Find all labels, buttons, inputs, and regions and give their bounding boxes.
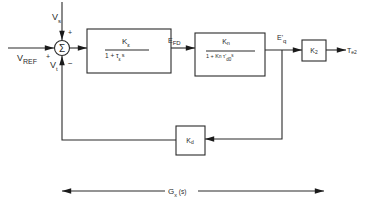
vref-input: VREF + [8,48,54,65]
block-diagram: Vs + VREF + Σ Vt − Kε 1 + τεs EFD Kn 1 +… [0,0,375,206]
gx-span-indicator: Gx (s) [62,187,324,198]
exciter-block: Kε 1 + τεs [87,29,171,73]
vt-sign: − [68,59,73,68]
svg-text:Kn: Kn [222,38,230,46]
vref-sign: + [46,53,50,60]
k2-block: K2 [302,40,326,61]
field-block: Kn 1 + Kn τ'd0s [195,33,265,76]
svg-text:K2: K2 [310,47,318,55]
svg-text:Vs: Vs [52,12,61,24]
summing-junction: Σ [55,41,70,56]
svg-text:Gx (s): Gx (s) [168,187,186,198]
te-label: Te2 [347,47,357,55]
svg-text:Vt: Vt [50,60,58,72]
kd-block: Kd [176,126,205,155]
svg-text:VREF: VREF [17,53,37,65]
sigma-icon: Σ [59,43,65,54]
vs-input: Vs + [52,2,72,40]
svg-text:Kd: Kd [186,137,194,145]
eq-label: E'q [277,34,286,44]
vs-sign: + [68,29,72,36]
